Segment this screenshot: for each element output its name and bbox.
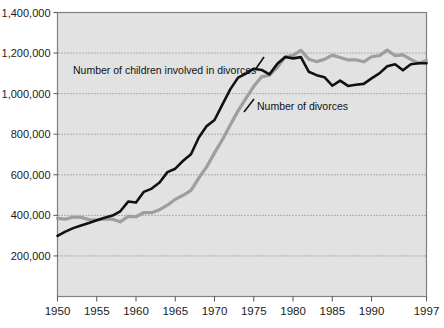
x-tick-label-1975: 1975 [241, 305, 267, 317]
plot-area [58, 13, 427, 297]
y-tick-label-200000: 200,000 [11, 250, 51, 262]
x-tick-label-1990: 1990 [359, 305, 385, 317]
divorce-statistics-chart: 1,400,0001,200,0001,000,000800,000600,00… [0, 0, 444, 328]
annotation-label-0: Number of children involved in divorces [73, 64, 256, 76]
y-tick-label-400000: 400,000 [11, 209, 51, 221]
y-tick-label-1000000: 1,000,000 [2, 88, 51, 100]
x-tick-label-1950: 1950 [45, 305, 71, 317]
annotation-label-1: Number of divorces [257, 100, 348, 112]
y-tick-label-800000: 800,000 [11, 128, 51, 140]
x-tick-label-1955: 1955 [84, 305, 110, 317]
y-tick-label-600000: 600,000 [11, 169, 51, 181]
x-axis-tick-labels: 1950195519601965197019751980198519901997 [45, 305, 440, 317]
y-tick-label-1400000: 1,400,000 [2, 7, 51, 19]
x-tick-label-1980: 1980 [280, 305, 306, 317]
x-tick-label-1965: 1965 [162, 305, 188, 317]
x-tick-label-1985: 1985 [319, 305, 345, 317]
y-tick-label-1200000: 1,200,000 [2, 47, 51, 59]
chart-canvas: 1,400,0001,200,0001,000,000800,000600,00… [0, 0, 444, 328]
x-tick-label-1997: 1997 [414, 305, 440, 317]
plot-background [58, 13, 427, 297]
x-tick-label-1960: 1960 [123, 305, 149, 317]
x-tick-label-1970: 1970 [202, 305, 228, 317]
